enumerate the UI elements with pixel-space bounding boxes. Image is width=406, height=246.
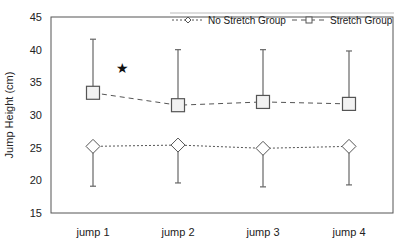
y-tick-label: 20 [30, 174, 42, 186]
legend-diamond-icon [185, 17, 191, 23]
diamond-marker-icon [171, 138, 185, 152]
diamond-marker-icon [256, 141, 270, 155]
legend: No Stretch Group Stretch Group [170, 13, 394, 26]
x-axis: jump 1jump 2jump 3jump 4 [75, 226, 365, 238]
diamond-marker-icon [342, 139, 356, 153]
y-tick-label: 15 [30, 207, 42, 219]
y-tick-label: 40 [30, 44, 42, 56]
x-tick-label: jump 4 [331, 226, 365, 238]
y-tick-label: 30 [30, 109, 42, 121]
legend-square-icon [306, 17, 312, 23]
x-tick-label: jump 2 [160, 226, 194, 238]
legend-stretch-label: Stretch Group [330, 15, 393, 26]
line-stretch [93, 93, 349, 105]
plot-frame [51, 17, 393, 213]
square-marker-icon [87, 86, 100, 99]
y-tick-label: 25 [30, 142, 42, 154]
line-no-stretch [93, 145, 349, 148]
chart: 15202530354045 jump 1jump 2jump 3jump 4 … [0, 0, 406, 246]
square-marker-icon [172, 99, 185, 112]
square-marker-icon [343, 97, 356, 110]
legend-no-stretch-label: No Stretch Group [208, 15, 286, 26]
y-axis: 15202530354045 [30, 11, 42, 219]
diamond-marker-icon [86, 139, 100, 153]
y-axis-title: Jump Height (cm) [3, 72, 15, 159]
plot-border [51, 17, 393, 213]
square-marker-icon [257, 95, 270, 108]
significance-star-icon: ★ [116, 60, 129, 76]
x-tick-label: jump 3 [245, 226, 279, 238]
y-tick-label: 35 [30, 76, 42, 88]
x-tick-label: jump 1 [75, 226, 109, 238]
y-tick-label: 45 [30, 11, 42, 23]
